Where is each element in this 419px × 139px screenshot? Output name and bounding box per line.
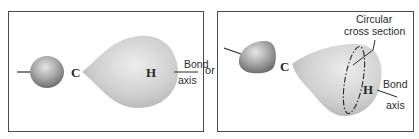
right-orbital-group: C Circular cross section H Bond axis bbox=[224, 13, 408, 116]
carbon-small-lobe bbox=[30, 56, 64, 88]
bond-axis-label-top: Bond bbox=[383, 78, 408, 90]
cross-section-label-line2: cross section bbox=[344, 25, 405, 37]
hydrogen-label: H bbox=[363, 82, 373, 97]
left-orbital-group: C H Bond axis bbox=[17, 36, 209, 108]
hydrogen-overlap-lobe bbox=[82, 36, 178, 108]
bond-axis-label-bottom: axis bbox=[178, 74, 197, 86]
bond-axis-line bbox=[377, 90, 397, 97]
carbon-label: C bbox=[280, 59, 289, 74]
hydrogen-label: H bbox=[146, 65, 156, 80]
cross-section-pointer-line-top bbox=[373, 40, 375, 50]
carbon-label: C bbox=[71, 65, 80, 80]
cross-section-label-line1: Circular bbox=[356, 13, 393, 25]
bond-axis-label-bottom: axis bbox=[386, 99, 405, 111]
hydrogen-overlap-lobe bbox=[292, 44, 382, 116]
carbon-small-lobe bbox=[239, 41, 276, 73]
or-separator-label: or bbox=[203, 64, 217, 76]
bond-line-stub bbox=[224, 48, 241, 54]
